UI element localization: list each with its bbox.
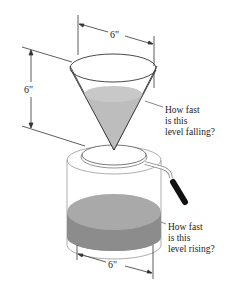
pot-level-annotation: How fast is this level rising?: [168, 222, 215, 254]
pot-level-leader: [161, 222, 166, 224]
svg-text:How fast: How fast: [168, 222, 203, 232]
cone-height-dimension: [22, 47, 85, 146]
svg-text:is this: is this: [165, 116, 188, 126]
cone-diameter-label: 6": [110, 29, 119, 40]
handle-grip: [173, 182, 185, 202]
svg-text:level falling?: level falling?: [165, 127, 215, 137]
svg-text:How fast: How fast: [165, 105, 200, 115]
pot-liquid-surface: [67, 194, 161, 230]
cone-liquid: [84, 94, 143, 150]
cone: [70, 54, 157, 150]
svg-text:is this: is this: [168, 233, 191, 243]
pot-diameter-label: 6": [108, 259, 117, 270]
cone-level-annotation: How fast is this level falling?: [165, 105, 215, 137]
svg-text:level rising?: level rising?: [168, 244, 215, 254]
cone-level-leader: [145, 101, 163, 107]
cone-and-pot-diagram: 6" 6" How fast is: [0, 0, 233, 289]
cone-height-label: 6": [24, 84, 33, 95]
